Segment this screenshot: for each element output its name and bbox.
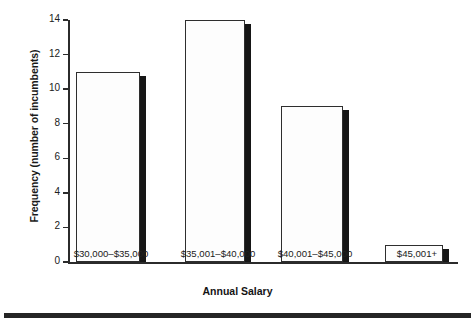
y-tick-label: 6 <box>54 151 60 163</box>
y-tick-label: 8 <box>54 117 60 129</box>
y-axis-title: Frequency (number of incumbents) <box>28 6 40 266</box>
bar-chart-figure: Frequency (number of incumbents) 0246810… <box>0 0 475 324</box>
y-axis-line <box>68 20 70 262</box>
x-tick-label: $45,001+ <box>347 248 475 260</box>
y-tick-label: 12 <box>49 48 60 60</box>
plot-area: 02468101214 <box>68 20 458 262</box>
bar-shadow <box>343 110 349 262</box>
y-tick-mark <box>63 123 68 125</box>
y-tick-mark <box>63 54 68 56</box>
bar <box>281 106 343 262</box>
bar <box>185 20 245 262</box>
y-tick-mark <box>63 88 68 90</box>
y-tick-label: 2 <box>54 220 60 232</box>
y-tick-mark <box>63 261 68 263</box>
bar <box>76 72 140 262</box>
bottom-rule <box>4 313 471 318</box>
y-tick-label: 4 <box>54 186 60 198</box>
x-axis-title: Annual Salary <box>0 285 475 297</box>
bar-shadow <box>245 24 251 262</box>
bar-shadow <box>140 76 146 262</box>
y-tick-label: 10 <box>49 82 60 94</box>
y-tick-mark <box>63 192 68 194</box>
y-tick-mark <box>63 19 68 21</box>
y-tick-mark <box>63 227 68 229</box>
y-tick-mark <box>63 158 68 160</box>
y-tick-label: 14 <box>49 13 60 25</box>
x-axis-line <box>68 262 458 264</box>
